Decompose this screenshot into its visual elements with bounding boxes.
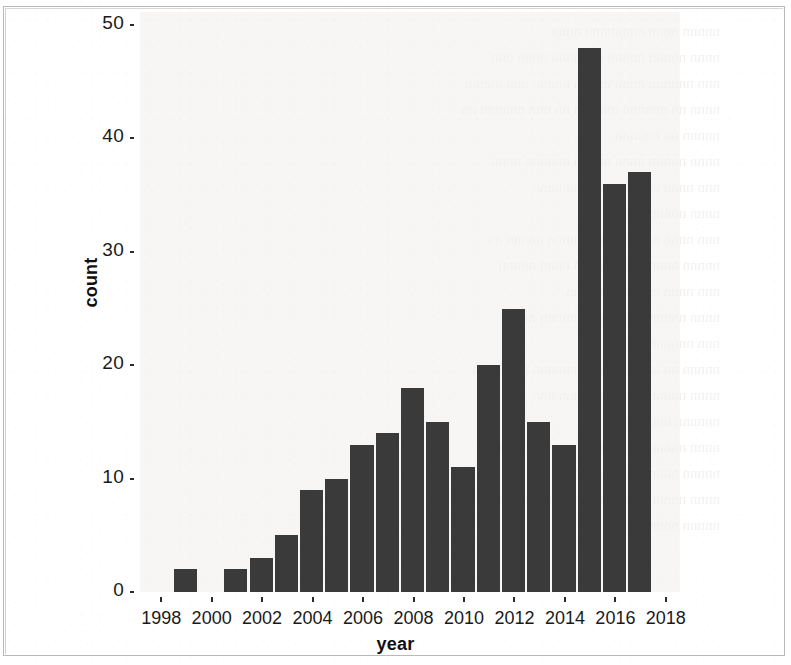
x-tick-label-2000: 2000 — [192, 608, 232, 629]
y-tick-label-50: 50 — [78, 12, 124, 34]
x-tick-mark-2008 — [413, 597, 415, 602]
x-tick-label-2006: 2006 — [343, 608, 383, 629]
x-tick-mark-2010 — [463, 597, 465, 602]
x-tick-mark-2016 — [614, 597, 616, 602]
bar-2010 — [451, 467, 474, 592]
x-tick-mark-1998 — [160, 597, 162, 602]
bar-2015 — [578, 48, 601, 592]
bar-2009 — [426, 422, 449, 592]
bar-2001 — [224, 569, 247, 592]
y-tick-mark-0 — [130, 591, 134, 593]
x-tick-label-2008: 2008 — [393, 608, 433, 629]
bar-2006 — [350, 445, 373, 592]
y-tick-mark-40 — [130, 137, 134, 139]
bar-2012 — [502, 309, 525, 593]
bar-2016 — [603, 184, 626, 592]
x-tick-mark-2006 — [362, 597, 364, 602]
x-tick-label-2004: 2004 — [293, 608, 333, 629]
x-tick-mark-2004 — [312, 597, 314, 602]
y-tick-mark-20 — [130, 364, 134, 366]
y-tick-label-20: 20 — [78, 352, 124, 374]
x-tick-mark-2000 — [211, 597, 213, 602]
y-tick-mark-50 — [130, 24, 134, 26]
bar-1999 — [174, 569, 197, 592]
y-tick-label-0: 0 — [78, 579, 124, 601]
x-tick-label-2002: 2002 — [242, 608, 282, 629]
y-tick-mark-10 — [130, 478, 134, 480]
bar-2014 — [552, 445, 575, 592]
x-tick-label-1998: 1998 — [141, 608, 181, 629]
y-axis-title: count — [81, 258, 102, 308]
x-tick-mark-2014 — [564, 597, 566, 602]
bar-2002 — [250, 558, 273, 592]
bar-2004 — [300, 490, 323, 592]
y-tick-label-10: 10 — [78, 466, 124, 488]
y-tick-mark-30 — [130, 251, 134, 253]
bar-2017 — [628, 172, 651, 592]
x-tick-label-2016: 2016 — [595, 608, 635, 629]
x-tick-label-2018: 2018 — [646, 608, 686, 629]
bar-2008 — [401, 388, 424, 592]
x-tick-mark-2012 — [513, 597, 515, 602]
bar-2005 — [325, 479, 348, 592]
bar-2003 — [275, 535, 298, 592]
x-tick-mark-2018 — [665, 597, 667, 602]
x-tick-label-2012: 2012 — [494, 608, 534, 629]
bar-2013 — [527, 422, 550, 592]
bar-2011 — [477, 365, 500, 592]
bar-2007 — [376, 433, 399, 592]
figure-frame: nnnnn nnnn nnnnnnnn nnnn nnnn nnnnn nnnn… — [0, 0, 791, 665]
y-tick-label-40: 40 — [78, 125, 124, 147]
x-tick-mark-2002 — [261, 597, 263, 602]
x-tick-label-2010: 2010 — [444, 608, 484, 629]
x-axis-title: year — [0, 634, 791, 655]
bar-plot-area — [141, 25, 681, 592]
x-tick-label-2014: 2014 — [545, 608, 585, 629]
